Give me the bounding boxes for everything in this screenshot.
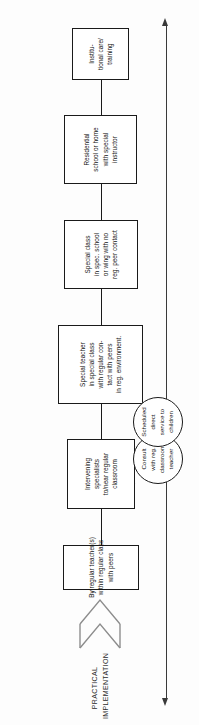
connector-special-teacher-to-special-class bbox=[101, 289, 102, 325]
node-line: Intervening bbox=[83, 458, 92, 490]
diagram-stage: By regular teacher(s) within regular cla… bbox=[0, 0, 199, 725]
node-line: Institu- bbox=[87, 44, 96, 64]
continuum-arrowhead-start bbox=[162, 698, 168, 706]
node-line: By regular teacher(s) bbox=[87, 537, 96, 598]
node-line: school or home bbox=[91, 127, 100, 171]
node-line: tact with peers bbox=[105, 344, 114, 386]
connector-specialists-to-special-teacher bbox=[101, 404, 102, 439]
node-line: or wing with no bbox=[101, 233, 110, 276]
node-line: with special bbox=[101, 133, 110, 167]
node-line: in spec. school bbox=[92, 233, 101, 276]
node-residential-school[interactable]: Residential school or home with special … bbox=[64, 115, 137, 184]
circle-scheduled-direct-service[interactable]: Scheduled direct service to children bbox=[133, 397, 183, 447]
continuum-axis-line bbox=[166, 26, 167, 698]
node-intervening-specialists[interactable]: Intervening specialists to/near regular … bbox=[67, 439, 135, 509]
node-regular-teacher[interactable]: By regular teacher(s) within regular cla… bbox=[63, 545, 139, 590]
node-line: with regular con- bbox=[96, 340, 105, 388]
node-line: specialists bbox=[92, 459, 101, 489]
circle-line: Scheduled bbox=[140, 407, 149, 436]
circle-line: direct bbox=[149, 414, 158, 429]
node-line: classroom bbox=[110, 459, 119, 489]
node-line: Residential bbox=[82, 133, 91, 165]
node-line: training bbox=[105, 43, 114, 64]
circle-line: teacher bbox=[167, 449, 176, 470]
node-line: Special teacher bbox=[78, 342, 87, 387]
circle-line: with reg. bbox=[149, 447, 158, 470]
circle-line: service to bbox=[158, 409, 167, 435]
node-line: to/near regular bbox=[101, 453, 110, 495]
connector-special-class-to-residential bbox=[101, 184, 102, 220]
open-chevron-up-arrow bbox=[76, 594, 126, 652]
node-line: in reg. environment. bbox=[114, 336, 123, 393]
node-line: within regular class bbox=[96, 540, 105, 595]
circle-line: classroom bbox=[158, 445, 167, 473]
continuum-arrowhead-end bbox=[162, 18, 168, 26]
node-special-class[interactable]: Special class in spec. school or wing wi… bbox=[64, 220, 138, 289]
caption-line-2: IMPLEMENTATION bbox=[101, 657, 112, 719]
node-special-teacher[interactable]: Special teacher in special class with re… bbox=[58, 325, 143, 404]
caption-line-1: PRACTICAL bbox=[90, 657, 101, 719]
node-line: Special class bbox=[83, 236, 92, 274]
diagram-page: By regular teacher(s) within regular cla… bbox=[0, 0, 199, 725]
circle-line: children bbox=[167, 411, 176, 433]
node-line: instructor bbox=[110, 136, 119, 163]
node-line: tional care/ bbox=[96, 38, 105, 70]
caption-practical-implementation: PRACTICAL IMPLEMENTATION bbox=[90, 657, 111, 719]
connector-residential-to-institutional bbox=[101, 80, 102, 115]
node-line: with peers bbox=[106, 553, 115, 583]
circle-line: Consult bbox=[140, 449, 149, 470]
node-line: in special class bbox=[87, 343, 96, 387]
node-line: reg. peer contact bbox=[110, 230, 119, 279]
node-institutional-care[interactable]: Institu- tional care/ training bbox=[72, 28, 129, 80]
